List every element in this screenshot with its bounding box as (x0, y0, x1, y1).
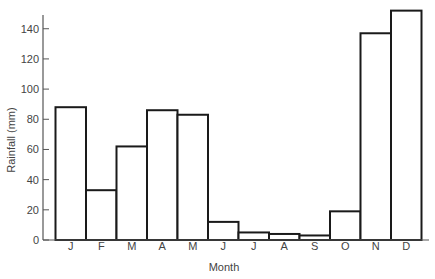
x-tick-label: F (98, 240, 105, 252)
x-tick-label: O (341, 240, 350, 252)
y-tick-label: 80 (27, 113, 39, 125)
bar (361, 33, 392, 240)
x-tick-label: J (68, 240, 74, 252)
x-tick-label: S (311, 240, 318, 252)
x-axis-title: Month (209, 261, 240, 273)
x-tick-label: M (188, 240, 197, 252)
bar (178, 115, 209, 240)
x-tick-label: A (281, 240, 289, 252)
bar (56, 107, 87, 240)
bar (147, 110, 178, 240)
x-tick-label: J (251, 240, 257, 252)
rainfall-bar-chart: 020406080100120140 JFMAMJJASOND Month Ra… (0, 0, 435, 279)
x-tick-label: D (402, 240, 410, 252)
x-tick-label: A (159, 240, 167, 252)
x-tick-label: N (372, 240, 380, 252)
y-tick-label: 140 (21, 23, 39, 35)
y-axis-ticks: 020406080100120140 (21, 23, 49, 246)
x-tick-label: M (127, 240, 136, 252)
y-axis-title: Rainfall (mm) (5, 107, 17, 172)
x-axis-labels: JFMAMJJASOND (68, 240, 410, 252)
y-tick-label: 40 (27, 174, 39, 186)
y-tick-label: 0 (33, 234, 39, 246)
bar (86, 190, 117, 240)
bar (239, 232, 270, 240)
bar (117, 146, 148, 240)
y-tick-label: 60 (27, 143, 39, 155)
x-tick-label: J (221, 240, 227, 252)
y-tick-label: 100 (21, 83, 39, 95)
bar (391, 11, 422, 240)
bar (330, 211, 361, 240)
y-tick-label: 20 (27, 204, 39, 216)
bar (208, 222, 239, 240)
bars (56, 11, 422, 240)
y-tick-label: 120 (21, 53, 39, 65)
